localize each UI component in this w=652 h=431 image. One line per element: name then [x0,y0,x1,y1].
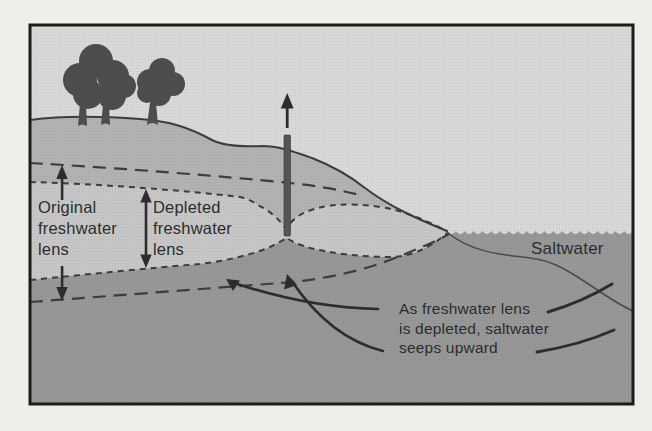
seepage-note: As freshwater lens is depleted, saltwate… [399,299,549,358]
saltwater-label: Saltwater [531,240,604,258]
depleted-lens-label: Depleted freshwater lens [153,197,232,260]
well-icon [284,135,291,236]
diagram: Original freshwater lens Depleted freshw… [0,0,652,431]
original-lens-label: Original freshwater lens [38,197,117,260]
